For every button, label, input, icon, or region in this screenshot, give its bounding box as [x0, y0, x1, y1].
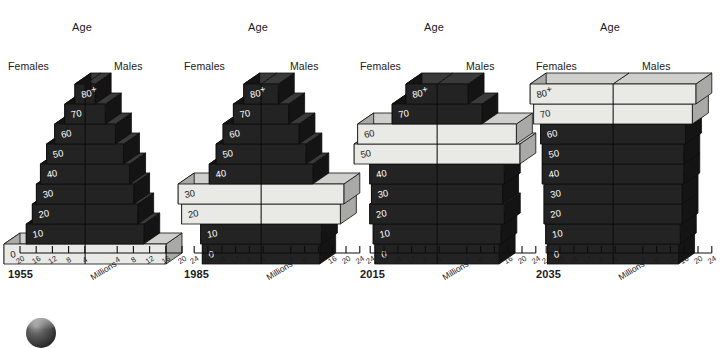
bar-row-age-80plus: 80+	[406, 73, 484, 104]
age-label-50: 50	[52, 147, 64, 160]
males-label: Males	[466, 60, 495, 72]
age-header-label: Age	[600, 21, 620, 33]
age-label-60: 60	[363, 127, 375, 140]
age-label-70: 70	[70, 107, 82, 120]
age-label-60: 60	[228, 127, 240, 140]
age-label-10: 10	[206, 227, 218, 240]
age-label-50: 50	[359, 147, 371, 160]
age-label-30: 30	[183, 187, 195, 200]
age-header-label: Age	[424, 21, 444, 33]
year-label-1955: 1955	[8, 268, 33, 280]
age-label-40: 40	[375, 167, 387, 180]
pyramid-panel-2015: 01020304050607080+24201612844812162024Mi…	[352, 0, 528, 343]
age-label-70: 70	[397, 107, 409, 120]
age-label-30: 30	[549, 187, 561, 200]
females-label: Females	[8, 60, 49, 72]
age-label-10: 10	[551, 227, 563, 240]
females-label: Females	[184, 60, 225, 72]
age-label-30: 30	[377, 187, 389, 200]
age-label-50: 50	[221, 147, 233, 160]
bar-row-age-80plus: 80+	[530, 73, 712, 104]
age-header-label: Age	[72, 21, 92, 33]
age-label-60: 60	[546, 127, 558, 140]
axis-tick-label: 20	[692, 254, 704, 266]
age-label-10: 10	[378, 227, 390, 240]
age-label-40: 40	[548, 167, 560, 180]
age-label-40: 40	[215, 167, 227, 180]
age-label-10: 10	[32, 227, 44, 240]
axis-tick-label: 24	[188, 254, 200, 266]
age-label-70: 70	[539, 107, 551, 120]
females-label: Females	[360, 60, 401, 72]
axis-tick-label: 24	[706, 254, 718, 266]
age-label-40: 40	[46, 167, 58, 180]
age-label-20: 20	[375, 207, 387, 220]
age-label-30: 30	[42, 187, 54, 200]
pyramid-panel-1955: 01020304050607080+2016128448121620Millio…	[0, 0, 176, 343]
males-label: Males	[290, 60, 319, 72]
age-label-50: 50	[548, 147, 560, 160]
year-label-2035: 2035	[536, 268, 561, 280]
year-label-1985: 1985	[184, 268, 209, 280]
age-header-label: Age	[248, 21, 268, 33]
age-label-20: 20	[38, 207, 50, 220]
decorative-sphere-icon	[26, 318, 56, 348]
males-label: Males	[114, 60, 143, 72]
bar-male-age-80plus	[613, 73, 712, 104]
axis-tick-label: 20	[340, 254, 352, 266]
age-label-70: 70	[239, 107, 251, 120]
age-label-20: 20	[187, 207, 199, 220]
age-label-20: 20	[549, 207, 561, 220]
pyramid-panel-1985: 01020304050607080+24201612844812162024Mi…	[176, 0, 352, 343]
males-label: Males	[642, 60, 671, 72]
pyramid-panel-2035: 01020304050607080+24201612844812162024Mi…	[528, 0, 704, 343]
females-label: Females	[536, 60, 577, 72]
age-label-60: 60	[60, 127, 72, 140]
year-label-2015: 2015	[360, 268, 385, 280]
axis-tick-label: 20	[516, 254, 528, 266]
